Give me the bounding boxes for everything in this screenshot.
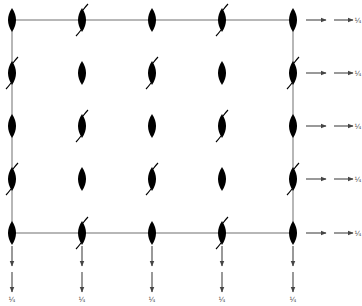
twofold-axis-icon — [8, 221, 16, 245]
twofold-screw-axis-icon — [146, 163, 158, 195]
right-arrow-label: ¼ — [355, 176, 362, 184]
twofold-axis-icon — [289, 8, 297, 32]
twofold-screw-axis-icon — [287, 163, 299, 195]
right-arrow-label: ¼ — [355, 17, 362, 25]
down-arrow-label: ¼ — [290, 296, 297, 304]
twofold-axis-icon — [148, 114, 156, 138]
translation-arrows: ¼¼¼¼¼¼¼¼¼¼ — [9, 17, 362, 304]
right-arrow-label: ¼ — [355, 123, 362, 131]
down-arrow-label: ¼ — [9, 296, 16, 304]
symmetry-diagram: ¼¼¼¼¼¼¼¼¼¼ — [0, 0, 362, 306]
symmetry-symbols — [6, 4, 299, 249]
twofold-screw-axis-icon — [6, 163, 18, 195]
twofold-screw-axis-icon — [6, 57, 18, 89]
twofold-screw-axis-icon — [216, 110, 228, 142]
twofold-screw-axis-icon — [287, 57, 299, 89]
twofold-axis-icon — [78, 167, 86, 191]
down-arrow-label: ¼ — [79, 296, 86, 304]
twofold-screw-axis-icon — [146, 57, 158, 89]
twofold-axis-icon — [8, 114, 16, 138]
right-arrow-label: ¼ — [355, 70, 362, 78]
twofold-axis-icon — [289, 114, 297, 138]
twofold-axis-icon — [148, 8, 156, 32]
twofold-axis-icon — [78, 61, 86, 85]
twofold-axis-icon — [148, 221, 156, 245]
down-arrow-label: ¼ — [149, 296, 156, 304]
twofold-axis-icon — [8, 8, 16, 32]
twofold-axis-icon — [218, 167, 226, 191]
right-arrow-label: ¼ — [355, 230, 362, 238]
twofold-axis-icon — [218, 61, 226, 85]
twofold-axis-icon — [289, 221, 297, 245]
down-arrow-label: ¼ — [219, 296, 226, 304]
twofold-screw-axis-icon — [76, 110, 88, 142]
